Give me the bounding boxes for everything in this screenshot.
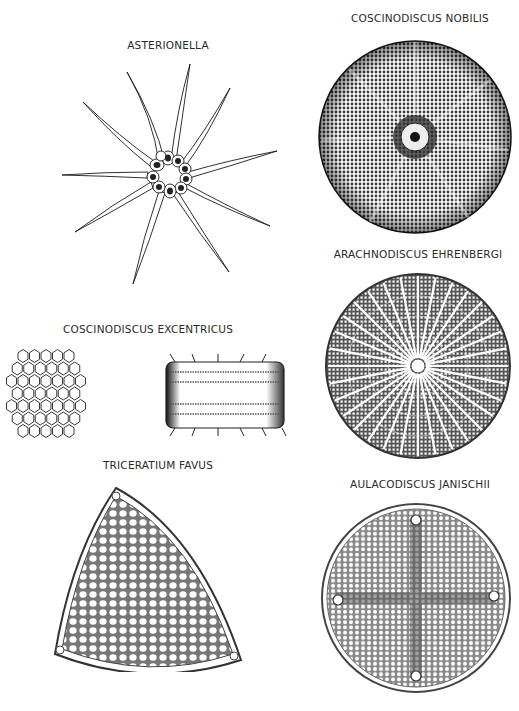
coscinodiscus-nobilis-illustration <box>310 30 519 245</box>
arachnodiscus-ehrenbergi-illustration <box>320 268 516 464</box>
label-coscinodiscus-nobilis: COSCINODISCUS NOBILIS <box>351 12 489 24</box>
label-asterionella: ASTERIONELLA <box>127 39 209 51</box>
asterionella-arms <box>62 64 277 284</box>
label-coscinodiscus-excentricus: COSCINODISCUS EXCENTRICUS <box>63 323 233 335</box>
label-arachnodiscus-ehrenbergi: ARACHNODISCUS EHRENBERGI <box>334 248 503 260</box>
triceratium-favus-illustration <box>48 482 248 672</box>
label-triceratium-favus: TRICERATIUM FAVUS <box>103 459 213 471</box>
coscinodiscus-excentricus-honeycomb <box>2 348 90 442</box>
label-aulacodiscus-janischii: AULACODISCUS JANISCHII <box>350 478 490 490</box>
coscinodiscus-excentricus-girdle-view <box>160 350 290 440</box>
asterionella-illustration <box>55 60 285 290</box>
aulacodiscus-janischii-illustration <box>318 500 514 696</box>
